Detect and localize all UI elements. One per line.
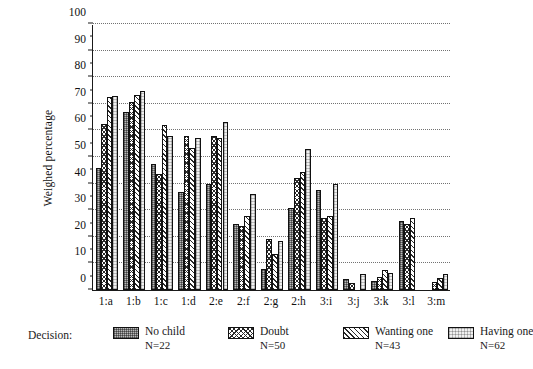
bar-group <box>371 25 393 290</box>
y-tick-mark-minor <box>90 275 93 276</box>
y-tick-mark <box>88 262 93 263</box>
bar <box>223 122 229 290</box>
gridline <box>93 23 450 24</box>
y-tick-label: 80 <box>75 59 87 71</box>
legend-label: No child <box>145 325 185 338</box>
x-tick-label: 3:m <box>427 295 445 307</box>
bar <box>278 241 284 290</box>
bar-group <box>426 25 448 290</box>
y-tick-label: 40 <box>75 166 87 178</box>
bar <box>388 273 394 290</box>
legend-title: Decision: <box>28 329 72 341</box>
y-tick-mark-minor <box>90 142 93 143</box>
bar <box>250 194 256 290</box>
y-tick-mark <box>88 209 93 210</box>
legend: Decision: No childN=22DoubtN=50Wanting o… <box>28 325 498 365</box>
y-tick-mark <box>88 23 93 24</box>
x-tick-label: 2:e <box>209 295 223 307</box>
plot-area: 0102030405060708090100 <box>92 25 450 291</box>
bar-group <box>123 25 145 290</box>
y-tick-mark <box>88 156 93 157</box>
x-tick-label: 1:c <box>154 295 168 307</box>
y-tick-label: 100 <box>69 6 86 18</box>
y-tick-mark <box>88 76 93 77</box>
bar <box>443 274 449 290</box>
legend-label: Wanting one <box>375 325 433 338</box>
bar-group <box>288 25 310 290</box>
legend-label: Doubt <box>260 325 289 338</box>
y-tick-mark-minor <box>90 36 93 37</box>
bar <box>167 136 173 290</box>
y-tick-mark <box>88 129 93 130</box>
legend-count: N=62 <box>480 339 505 352</box>
legend-swatch <box>343 327 369 339</box>
y-tick-mark <box>88 235 93 236</box>
y-tick-mark-minor <box>90 62 93 63</box>
x-tick-label: 1:d <box>181 295 196 307</box>
legend-count: N=43 <box>375 339 400 352</box>
y-tick-mark <box>88 289 93 290</box>
y-tick-label: 0 <box>80 272 86 284</box>
x-tick-label: 3:i <box>320 295 332 307</box>
bar-group <box>343 25 365 290</box>
bar-group <box>96 25 118 290</box>
y-tick-mark-minor <box>90 195 93 196</box>
y-axis-title: Weighed percentage <box>42 58 54 258</box>
x-tick-label: 1:a <box>99 295 113 307</box>
bar-group <box>151 25 173 290</box>
x-tick-label: 1:b <box>126 295 141 307</box>
bar <box>195 138 201 290</box>
y-tick-mark <box>88 102 93 103</box>
y-tick-mark <box>88 49 93 50</box>
legend-count: N=22 <box>145 339 170 352</box>
x-tick-label: 2:f <box>237 295 250 307</box>
bar <box>410 218 416 290</box>
bar-group <box>178 25 200 290</box>
bar <box>305 149 311 290</box>
y-tick-mark <box>88 182 93 183</box>
y-tick-label: 20 <box>75 219 87 231</box>
y-tick-mark-minor <box>90 222 93 223</box>
y-tick-mark-minor <box>90 116 93 117</box>
bar-group <box>233 25 255 290</box>
x-tick-label: 3:l <box>403 295 415 307</box>
y-tick-label: 70 <box>75 86 87 98</box>
x-tick-label: 2:h <box>291 295 306 307</box>
y-tick-label: 50 <box>75 139 87 151</box>
legend-count: N=50 <box>260 339 285 352</box>
bar <box>333 184 339 290</box>
bar <box>349 283 355 290</box>
y-tick-label: 30 <box>75 192 87 204</box>
legend-swatch <box>228 327 254 339</box>
y-tick-mark-minor <box>90 169 93 170</box>
y-tick-mark-minor <box>90 249 93 250</box>
legend-swatch <box>113 327 139 339</box>
y-tick-label: 60 <box>75 112 87 124</box>
legend-swatch <box>448 327 474 339</box>
bar-group <box>316 25 338 290</box>
x-tick-label: 3:k <box>374 295 389 307</box>
bar-group <box>261 25 283 290</box>
bar <box>360 274 366 290</box>
bar <box>112 96 118 290</box>
bar-group <box>399 25 421 290</box>
y-tick-mark-minor <box>90 89 93 90</box>
bar <box>140 91 146 291</box>
x-tick-label: 3:j <box>348 295 360 307</box>
y-tick-label: 10 <box>75 245 87 257</box>
legend-label: Having one <box>480 325 533 338</box>
y-tick-label: 90 <box>75 33 87 45</box>
x-tick-label: 2:g <box>264 295 279 307</box>
bar-group <box>206 25 228 290</box>
